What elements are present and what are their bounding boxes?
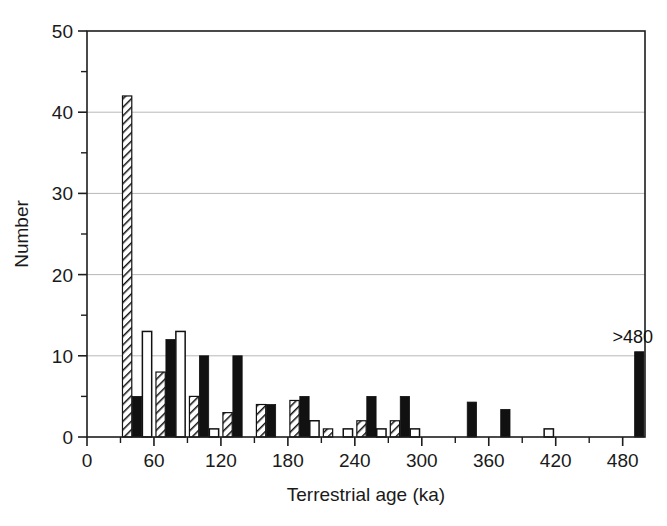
bar-hatched-60 bbox=[156, 372, 165, 437]
bar-hatched-150 bbox=[256, 405, 265, 437]
y-tick-label-0: 0 bbox=[62, 427, 73, 448]
bar-solid-black-240 bbox=[367, 396, 376, 437]
bar-open-white-90 bbox=[209, 429, 218, 437]
bars-layer bbox=[122, 96, 643, 437]
x-tick-label-420: 420 bbox=[540, 450, 572, 471]
bar-solid-black-60 bbox=[166, 340, 175, 437]
bar-open-white-210 bbox=[343, 429, 352, 437]
x-tick-label-480: 480 bbox=[607, 450, 639, 471]
y-tick-labels: 01020304050 bbox=[52, 21, 73, 448]
bar-solid-black-150 bbox=[266, 405, 275, 437]
bar-open-white-180 bbox=[310, 421, 319, 437]
annotations-layer: >480 bbox=[612, 327, 653, 347]
bar-solid-black-360 bbox=[501, 409, 510, 437]
gridlines bbox=[87, 112, 645, 356]
y-tick-label-10: 10 bbox=[52, 346, 73, 367]
x-tick-label-300: 300 bbox=[406, 450, 438, 471]
y-tick-label-40: 40 bbox=[52, 102, 73, 123]
histogram-figure: 060120180240300360420480 01020304050 >48… bbox=[0, 0, 667, 526]
x-axis-title: Terrestrial age (ka) bbox=[287, 484, 445, 505]
bar-solid-black-30 bbox=[132, 396, 141, 437]
bar-hatched-30 bbox=[122, 96, 131, 437]
bar-solid-black-120 bbox=[233, 356, 242, 437]
x-tick-label-240: 240 bbox=[339, 450, 371, 471]
bar-hatched-120 bbox=[223, 413, 232, 437]
x-tick-labels: 060120180240300360420480 bbox=[82, 450, 639, 471]
bar-open-white-30 bbox=[142, 331, 151, 437]
bar-solid-black-90 bbox=[199, 356, 208, 437]
x-tick-label-60: 60 bbox=[143, 450, 164, 471]
bar-solid-black-330 bbox=[467, 402, 476, 437]
x-tick-label-120: 120 bbox=[205, 450, 237, 471]
bar-open-white-60 bbox=[176, 331, 185, 437]
bar-solid-black-180 bbox=[300, 396, 309, 437]
y-tick-label-20: 20 bbox=[52, 265, 73, 286]
bar-hatched-240 bbox=[357, 421, 366, 437]
bar-solid-black-480 bbox=[635, 352, 644, 437]
bar-hatched-180 bbox=[290, 400, 299, 437]
x-tick-label-360: 360 bbox=[473, 450, 505, 471]
bar-hatched-90 bbox=[189, 396, 198, 437]
annotation-480: >480 bbox=[612, 327, 653, 347]
bar-solid-black-270 bbox=[400, 396, 409, 437]
y-tick-label-50: 50 bbox=[52, 21, 73, 42]
terrestrial-age-histogram: 060120180240300360420480 01020304050 >48… bbox=[0, 0, 667, 526]
bar-hatched-270 bbox=[390, 421, 399, 437]
y-tick-label-30: 30 bbox=[52, 183, 73, 204]
x-tick-label-0: 0 bbox=[82, 450, 93, 471]
y-axis-title: Number bbox=[11, 200, 32, 268]
bar-open-white-240 bbox=[377, 429, 386, 437]
bar-open-white-390 bbox=[544, 429, 553, 437]
x-tick-label-180: 180 bbox=[272, 450, 304, 471]
bar-hatched-210 bbox=[323, 429, 332, 437]
bar-open-white-270 bbox=[410, 429, 419, 437]
